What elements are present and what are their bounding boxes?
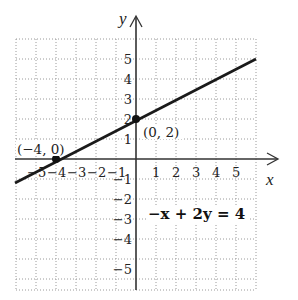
y-tick: −4 bbox=[113, 232, 132, 247]
point-label-x-intercept: (−4, 0) bbox=[17, 141, 65, 157]
y-tick: −1 bbox=[113, 172, 132, 187]
x-tick: 2 bbox=[172, 165, 180, 180]
equation-label: −x + 2y = 4 bbox=[148, 205, 245, 223]
graph: x y −5 −4 −3 −2 −1 1 2 3 4 5 5 4 3 2 1 −… bbox=[0, 0, 298, 300]
x-tick: −3 bbox=[67, 165, 86, 180]
y-tick: 4 bbox=[124, 72, 132, 87]
x-axis-label: x bbox=[265, 170, 274, 189]
x-tick: 1 bbox=[152, 165, 160, 180]
intercept-point-y bbox=[132, 115, 140, 123]
x-tick: −2 bbox=[87, 165, 106, 180]
y-tick: 5 bbox=[124, 52, 132, 67]
x-tick: 4 bbox=[212, 165, 220, 180]
y-axis-label: y bbox=[117, 9, 127, 28]
point-label-y-intercept: (0, 2) bbox=[143, 124, 179, 140]
y-tick: 3 bbox=[124, 92, 132, 107]
y-tick: −2 bbox=[113, 192, 132, 207]
x-tick: 5 bbox=[232, 165, 240, 180]
y-tick: −3 bbox=[113, 212, 132, 227]
y-tick: 1 bbox=[124, 132, 132, 147]
x-tick-labels: −5 −4 −3 −2 −1 1 2 3 4 5 bbox=[27, 165, 240, 180]
x-tick: 3 bbox=[192, 165, 200, 180]
y-tick: −5 bbox=[113, 262, 132, 277]
x-tick: −4 bbox=[47, 165, 66, 180]
